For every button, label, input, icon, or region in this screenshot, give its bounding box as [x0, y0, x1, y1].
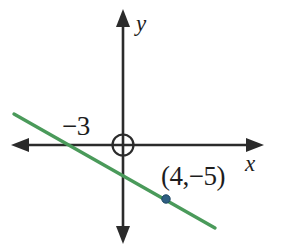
x-axis-label: x: [245, 152, 255, 175]
x-axis: [11, 138, 264, 152]
y-axis-arrow-down-icon: [116, 226, 130, 244]
point-coordinate-label: (4,−5): [161, 163, 225, 190]
coordinate-plane-figure: y x −3 (4,−5): [0, 0, 281, 252]
data-point-marker: [162, 195, 170, 203]
x-axis-arrow-right-icon: [246, 138, 264, 152]
x-intercept-label: −3: [62, 113, 90, 140]
x-axis-arrow-left-icon: [11, 138, 29, 152]
y-axis: [116, 9, 130, 244]
y-axis-arrow-up-icon: [116, 9, 130, 27]
graph-canvas: [0, 0, 281, 252]
y-axis-label: y: [136, 12, 146, 35]
